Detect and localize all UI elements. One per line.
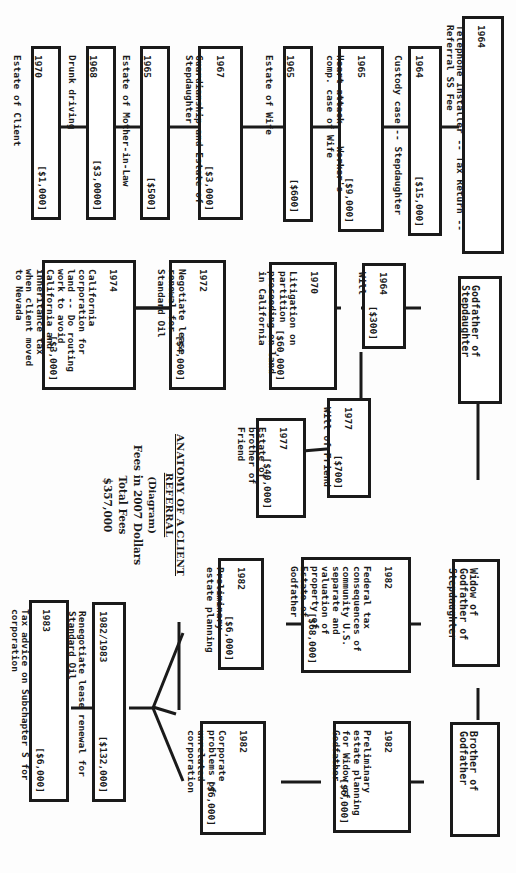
- matter-estate-of-wife: 1965 Estate of Wife [$600]: [283, 46, 313, 222]
- matter-guardianship: 1967 Guardianship and Estate of Stepdaug…: [198, 46, 243, 220]
- brother-label: Brother of Godfather: [458, 731, 480, 791]
- total-fees-label: Total Fees: [117, 405, 129, 605]
- client-desc: Telephone Installer -- Tax Return -- Ref…: [445, 25, 466, 246]
- matter-lease-renewal-1972: 1972 Negotiate lease renewal for Standar…: [169, 260, 226, 390]
- widow-label: Widow of Godfather of Stepdaughter: [448, 568, 480, 640]
- matter-estate-mother-in-law: 1965 Estate of Mother-in-Law [$500]: [140, 46, 170, 220]
- matter-litigation-partition: 1970 Litigation on partition proceeding …: [269, 262, 337, 390]
- matter-custody-case: 1964 Custody case -- Stepdaughter [$15,0…: [408, 46, 442, 236]
- matter-will-of-friend: 1977 Will of Friend [$700]: [327, 398, 371, 498]
- matter-preliminary-estate-planning: 1982 Preliminary estate planning [$6,000…: [218, 558, 264, 670]
- matter-estate-brother-of-friend: 1977 Estate of brother of Friend [$40,00…: [256, 418, 306, 518]
- diagram-title: ANATOMY OF A CLIENT REFERRAL: [164, 405, 186, 605]
- brother-box: Brother of Godfather: [450, 722, 500, 837]
- total-fees-value: $357,000: [102, 405, 114, 605]
- client-year: 1964: [476, 25, 487, 246]
- godfather-box: Godfather of Stepdaughter: [458, 276, 502, 404]
- matter-corporate-problems: 1982 Corporate problems of unrelated cor…: [200, 721, 266, 835]
- fees-note: Fees in 2007 Dollars: [132, 405, 144, 605]
- matter-federal-tax-consequences: 1982 Federal tax consequences of communi…: [301, 557, 411, 673]
- client-referral-diagram: 1964 Telephone Installer -- Tax Return -…: [0, 0, 516, 873]
- diagram-caption: ANATOMY OF A CLIENT REFERRAL (Diagram) F…: [102, 405, 186, 605]
- matter-estate-of-client: 1970 Estate of Client [$1,000]: [31, 46, 61, 220]
- matter-preliminary-estate-planning-widow: 1982 Preliminary estate planning for Wid…: [333, 721, 411, 833]
- matter-will: 1964 Will [$300]: [362, 263, 406, 349]
- godfather-label: Godfather of Stepdaughter: [460, 285, 482, 357]
- matter-drunk-driving: 1968 Drunk driving [$3,0000]: [86, 46, 116, 220]
- diagram-subtitle: (Diagram): [147, 405, 158, 605]
- client-box: 1964 Telephone Installer -- Tax Return -…: [462, 16, 504, 254]
- matter-subchapter-s: 1983 Tax advice on Subchapter S for corp…: [29, 600, 69, 802]
- matter-heart-attack: 1965 Heart attack -- Worker's comp. case…: [338, 46, 384, 232]
- widow-box: Widow of Godfather of Stepdaughter: [452, 559, 500, 667]
- matter-renegotiate-lease: 1982/1983 Renegotiate lease renewal for …: [92, 602, 126, 802]
- matter-california-corporation: 1974 California corporation for land -- …: [42, 260, 136, 390]
